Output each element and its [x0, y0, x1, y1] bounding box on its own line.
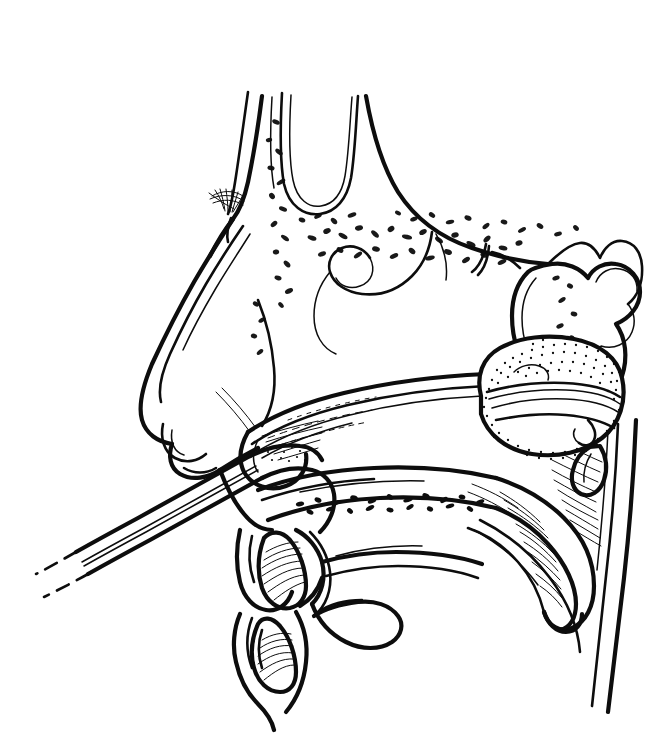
balloon-pack — [479, 337, 623, 456]
figure-root: C — [0, 0, 665, 736]
anatomical-illustration — [0, 0, 665, 736]
